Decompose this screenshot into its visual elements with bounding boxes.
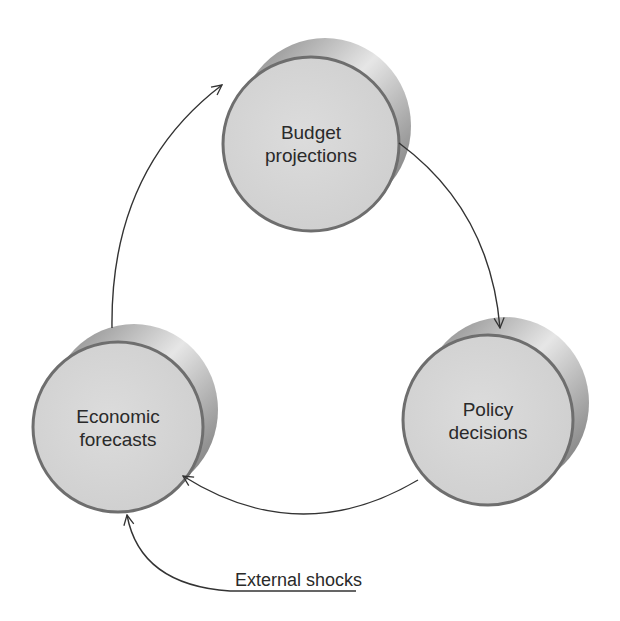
external-shocks-label: External shocks — [235, 570, 362, 590]
arrow-budget-to-policy — [399, 143, 500, 328]
label-policy-decisions: Policy decisions — [403, 398, 573, 444]
label-line: Policy — [403, 398, 573, 421]
label-economic-forecasts: Economic forecasts — [33, 405, 203, 451]
diagram-canvas — [0, 0, 620, 621]
label-line: Economic — [33, 405, 203, 428]
label-line: projections — [226, 144, 396, 167]
label-line: forecasts — [33, 428, 203, 451]
arrow-economic-to-budget — [112, 85, 222, 328]
label-line: decisions — [403, 421, 573, 444]
arrow-policy-to-economic — [183, 476, 418, 514]
label-line: Budget — [226, 121, 396, 144]
label-budget-projections: Budget projections — [226, 121, 396, 167]
